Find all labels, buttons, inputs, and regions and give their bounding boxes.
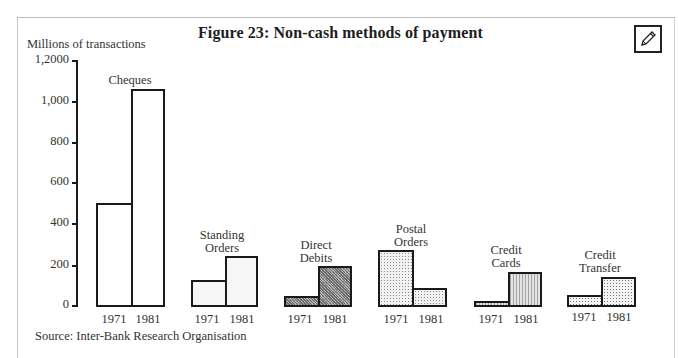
category-label-direct-debits: Direct Debits (300, 239, 333, 265)
year-label: 1971 (195, 312, 220, 327)
y-tick (72, 223, 77, 225)
category-label-postal-orders: Postal Orders (394, 223, 428, 249)
year-label: 1981 (514, 312, 539, 327)
year-label: 1981 (323, 312, 348, 327)
source-note: Source: Inter-Bank Research Organisation (35, 329, 247, 344)
y-axis-label: Millions of transactions (27, 37, 146, 52)
category-label-line: Orders (200, 242, 244, 255)
category-label-cheques: Cheques (108, 74, 151, 87)
y-tick-label: 200 (50, 257, 69, 272)
bar-direct-debits-1971 (284, 296, 320, 307)
bar-credit-cards-1971 (474, 301, 510, 307)
year-label: 1981 (419, 312, 444, 327)
category-label-line: Cheques (108, 74, 151, 87)
y-tick-label: 600 (50, 174, 69, 189)
bar-postal-orders-1971 (378, 250, 414, 307)
y-tick (72, 142, 77, 144)
bar-standing-orders-1971 (191, 280, 227, 307)
y-tick (72, 182, 77, 184)
bar-cheques-1971 (96, 203, 133, 307)
year-label: 1981 (607, 310, 632, 325)
year-label: 1981 (136, 312, 161, 327)
category-label-line: Debits (300, 252, 333, 265)
year-label: 1971 (384, 312, 409, 327)
category-label-line: Orders (394, 236, 428, 249)
category-label-standing-orders: Standing Orders (200, 229, 244, 255)
y-tick (72, 265, 77, 267)
bar-credit-transfer-1971 (567, 295, 603, 307)
chart-title: Figure 23: Non-cash methods of payment (198, 24, 483, 42)
bar-cheques-1981 (131, 89, 165, 307)
bar-credit-cards-1981 (508, 272, 542, 307)
year-label: 1971 (479, 312, 504, 327)
bar-postal-orders-1981 (412, 288, 447, 307)
y-tick (72, 101, 77, 103)
category-label-line: Cards (490, 257, 521, 270)
category-label-credit-cards: Credit Cards (490, 244, 521, 270)
year-label: 1971 (572, 310, 597, 325)
year-label: 1971 (288, 312, 313, 327)
category-label-line: Transfer (579, 262, 621, 275)
y-tick-label: 400 (50, 215, 69, 230)
y-tick (72, 60, 77, 62)
year-label: 1971 (102, 312, 127, 327)
y-tick-label: 1,2000 (35, 52, 69, 67)
bar-standing-orders-1981 (225, 256, 258, 307)
y-tick-label: 0 (63, 297, 69, 312)
year-label: 1981 (230, 312, 255, 327)
bar-direct-debits-1981 (318, 266, 352, 307)
pencil-icon[interactable] (634, 25, 662, 53)
y-tick-label: 800 (50, 134, 69, 149)
y-tick (72, 305, 77, 307)
y-tick-label: 1,000 (41, 93, 69, 108)
category-label-credit-transfer: Credit Transfer (579, 249, 621, 275)
bar-credit-transfer-1981 (601, 277, 636, 307)
